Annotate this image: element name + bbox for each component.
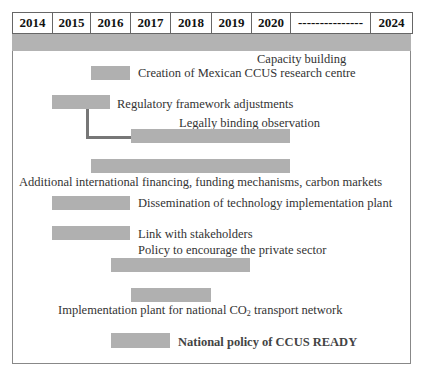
year-2020: 2020 [252,13,291,33]
year-header-row: 2014 2015 2016 2017 2018 2019 2020 -----… [12,12,413,34]
year-2019: 2019 [212,13,252,33]
private-sector-bar [111,258,250,272]
co2-network-label: Implementation plant for national CO2 tr… [58,303,343,321]
financing-label: Additional international financing, fund… [19,175,382,189]
regulatory-framework-label: Regulatory framework adjustments [117,97,293,111]
private-sector-label: Policy to encourage the private sector [138,243,326,257]
year-2014: 2014 [13,13,53,33]
research-centre-label: Creation of Mexican CCUS research centre [138,66,356,80]
stakeholders-label: Link with stakeholders [138,227,253,241]
year-2024: 2024 [371,13,412,33]
year-2016: 2016 [91,13,131,33]
year-2015: 2015 [53,13,91,33]
co2-network-bar [131,288,211,302]
year-gap: --------------- [291,13,371,33]
research-centre-bar [91,66,130,80]
connector-vertical [86,109,89,139]
year-2018: 2018 [171,13,212,33]
dissemination-bar [52,196,130,210]
stakeholders-bar [52,226,130,240]
ccus-ready-label: National policy of CCUS READY [178,335,357,349]
legally-binding-bar [131,129,290,143]
connector-horizontal [86,136,132,139]
ccus-ready-bar [111,333,170,348]
full-span-band [12,34,411,51]
regulatory-framework-bar [52,95,110,109]
capacity-building-label: Capacity building [257,52,346,66]
dissemination-label: Dissemination of technology implementati… [138,196,392,210]
legally-binding-label: Legally binding observation [179,116,320,130]
year-2017: 2017 [131,13,171,33]
financing-bar [91,159,290,173]
